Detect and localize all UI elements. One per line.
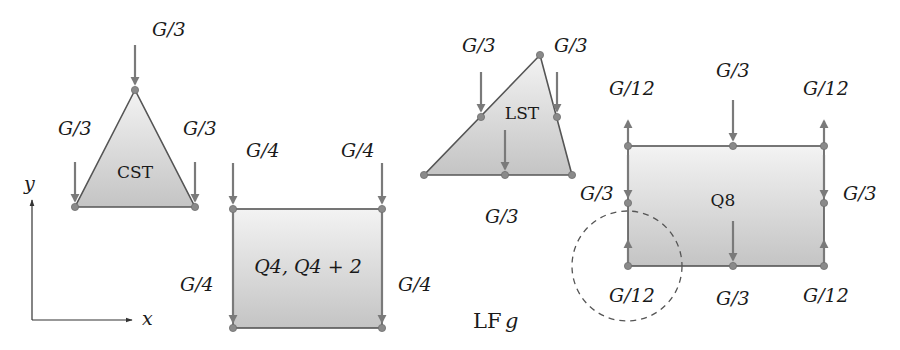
q4-top-left-load-label: G/4 [246,139,280,161]
q8-node-top-mid [729,142,736,149]
q8-top-left-corner-load-label: G/12 [609,77,655,99]
lst-bottom-edge-load-label: G/3 [485,205,519,227]
q8-node-mid-right [820,199,827,206]
caption: LF g [473,309,518,333]
lst-node-mid-right [553,113,560,120]
q4-node-bottom-right [378,324,385,331]
cst-element: CST G/3 G/3 G/3 [58,18,217,211]
q4-element: Q4, Q4 + 2 G/4 G/4 G/4 G/4 [180,139,432,332]
cst-top-load-label: G/3 [152,18,186,40]
q4-node-top-right [378,205,385,212]
lst-node-mid-left [477,113,484,120]
q8-node-bottom-mid [729,262,736,269]
q8-node-top-right [820,142,827,149]
q8-top-right-corner-load-label: G/12 [803,77,849,99]
lst-triangle [424,55,572,175]
q8-node-bottom-right [820,262,827,269]
y-axis-label: y [23,172,35,194]
q8-element: Q8 G/12 G/3 G/12 G/3 G/3 G/12 G/3 G/12 [572,59,877,321]
lumped-force-diagram: y x CST G/3 G/3 G/3 Q4, Q4 + 2 G/4 G/4 [0,0,900,350]
q8-bottom-left-corner-load-label: G/12 [609,284,655,306]
caption-symbol: g [505,309,518,333]
q4-top-right-load-label: G/4 [341,139,375,161]
cst-node-left [71,203,78,210]
q8-bottom-right-corner-load-label: G/12 [803,284,849,306]
q8-node-top-left [624,142,631,149]
q4-bottom-left-load-label: G/4 [180,273,214,295]
q8-mid-left-load-label: G/3 [580,182,614,204]
lst-label: LST [505,103,540,123]
lst-right-edge-load-label: G/3 [554,34,588,56]
lst-node-top [536,51,543,58]
lst-node-right [568,171,575,178]
cst-label: CST [117,162,154,182]
q4-node-bottom-left [229,324,236,331]
x-axis-label: x [142,307,153,329]
q4-label: Q4, Q4 + 2 [254,255,362,277]
caption-label: LF [473,309,502,333]
lst-node-left [420,171,427,178]
cst-node-right [191,203,198,210]
q8-node-bottom-left [624,262,631,269]
q8-bottom-mid-load-label: G/3 [716,287,750,309]
q4-bottom-right-load-label: G/4 [398,273,432,295]
q8-node-mid-left [624,199,631,206]
cst-right-load-label: G/3 [183,117,217,139]
cst-node-top [131,86,138,93]
q4-node-top-left [229,205,236,212]
cst-triangle [75,90,195,207]
cst-left-load-label: G/3 [58,117,92,139]
q8-top-mid-load-label: G/3 [716,59,750,81]
q8-label: Q8 [711,190,736,210]
lst-node-mid-bottom [501,171,508,178]
lst-left-edge-load-label: G/3 [462,34,496,56]
q8-mid-right-load-label: G/3 [843,182,877,204]
lst-element: LST G/3 G/3 G/3 [420,34,587,227]
